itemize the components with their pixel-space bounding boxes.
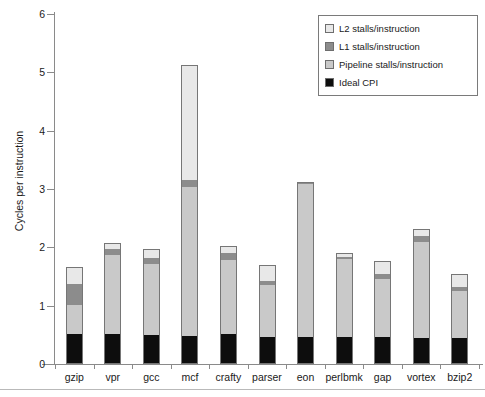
stacked-bar <box>297 182 314 364</box>
bar-segment <box>221 260 236 335</box>
y-tick-mark <box>47 14 55 15</box>
bar-segment <box>337 259 352 337</box>
bar-segment <box>221 334 236 363</box>
bar-segment <box>375 337 390 363</box>
bar-segment <box>144 264 159 335</box>
bar-segment <box>144 335 159 363</box>
bar-segment <box>182 336 197 363</box>
x-tick-mark <box>209 364 210 369</box>
bar-segment <box>67 267 82 285</box>
bar-group <box>104 0 121 365</box>
x-tick-label: vortex <box>402 371 441 383</box>
x-tick-label: bzip2 <box>440 371 479 383</box>
stacked-bar <box>451 274 468 364</box>
y-tick-mark <box>47 72 55 73</box>
y-tick-label: 3 <box>7 184 45 194</box>
bar-segment <box>105 334 120 363</box>
y-tick-label: 0 <box>7 359 45 369</box>
y-tick-mark <box>47 247 55 248</box>
legend-swatch-ideal-cpi <box>325 78 334 87</box>
bar-segment <box>67 284 82 304</box>
bar-segment <box>182 187 197 336</box>
bar-segment <box>298 182 313 184</box>
x-tick-mark <box>132 364 133 369</box>
legend-label-ideal-cpi: Ideal CPI <box>339 78 378 88</box>
bar-segment <box>414 338 429 363</box>
x-tick-label: perlbmk <box>325 371 364 383</box>
x-tick-mark <box>286 364 287 369</box>
y-tick-mark <box>47 189 55 190</box>
legend-swatch-l2-stalls <box>325 24 334 33</box>
legend-label-pipeline-stalls: Pipeline stalls/instruction <box>339 60 443 70</box>
x-tick-label: crafty <box>209 371 248 383</box>
bar-segment <box>452 287 467 291</box>
bar-group <box>66 0 83 365</box>
x-tick-label: parser <box>248 371 287 383</box>
bar-segment <box>337 337 352 363</box>
bar-segment <box>375 279 390 337</box>
x-tick-label: mcf <box>171 371 210 383</box>
x-tick-mark <box>248 364 249 369</box>
bar-segment <box>182 65 197 180</box>
bar-group <box>143 0 160 365</box>
x-tick-label: gap <box>363 371 402 383</box>
bar-segment <box>144 258 159 264</box>
bar-segment <box>182 180 197 186</box>
stacked-bar <box>259 265 276 364</box>
stacked-bar <box>181 65 198 364</box>
bar-segment <box>452 338 467 363</box>
bar-segment <box>260 281 275 286</box>
bar-segment <box>375 261 390 274</box>
bar-segment <box>260 337 275 363</box>
bar-segment <box>67 334 82 363</box>
x-tick-mark <box>94 364 95 369</box>
bar-segment <box>221 246 236 254</box>
bar-segment <box>67 305 82 334</box>
y-tick-mark <box>47 364 55 365</box>
x-tick-label: vpr <box>94 371 133 383</box>
x-tick-mark <box>363 364 364 369</box>
bar-segment <box>414 229 429 237</box>
x-tick-mark <box>325 364 326 369</box>
bar-group <box>181 0 198 365</box>
x-tick-label: gcc <box>132 371 171 383</box>
x-tick-label: gzip <box>55 371 94 383</box>
page-rule <box>0 389 485 390</box>
bar-group <box>220 0 237 365</box>
bar-segment <box>414 236 429 241</box>
legend-swatch-l1-stalls <box>325 42 334 51</box>
chart-legend: L2 stalls/instruction L1 stalls/instruct… <box>318 15 478 96</box>
bar-segment <box>105 249 120 255</box>
cpi-stacked-bar-chart: Cycles per instruction 0123456 gzipvprgc… <box>0 0 485 397</box>
legend-label-l2-stalls: L2 stalls/instruction <box>339 24 420 34</box>
bar-group <box>297 0 314 365</box>
bar-segment <box>452 291 467 338</box>
legend-swatch-pipeline-stalls <box>325 60 334 69</box>
bar-segment <box>221 253 236 259</box>
stacked-bar <box>220 246 237 364</box>
bar-segment <box>105 243 120 250</box>
legend-item-pipeline-stalls: Pipeline stalls/instruction <box>325 57 471 72</box>
x-tick-mark <box>402 364 403 369</box>
x-tick-mark <box>440 364 441 369</box>
bar-segment <box>337 257 352 259</box>
y-tick-label: 5 <box>7 67 45 77</box>
bar-segment <box>144 249 159 258</box>
bar-segment <box>260 265 275 281</box>
x-tick-label: eon <box>286 371 325 383</box>
y-tick-label: 4 <box>7 126 45 136</box>
stacked-bar <box>143 249 160 364</box>
bar-segment <box>298 184 313 337</box>
legend-label-l1-stalls: L1 stalls/instruction <box>339 42 420 52</box>
legend-item-ideal-cpi: Ideal CPI <box>325 75 471 90</box>
stacked-bar <box>66 267 83 364</box>
y-tick-label: 1 <box>7 301 45 311</box>
y-tick-mark <box>47 306 55 307</box>
stacked-bar <box>336 253 353 364</box>
y-tick-label: 6 <box>7 9 45 19</box>
bar-group <box>259 0 276 365</box>
y-tick-mark <box>47 131 55 132</box>
stacked-bar <box>413 229 430 364</box>
legend-item-l2-stalls: L2 stalls/instruction <box>325 21 471 36</box>
y-tick-label: 2 <box>7 242 45 252</box>
